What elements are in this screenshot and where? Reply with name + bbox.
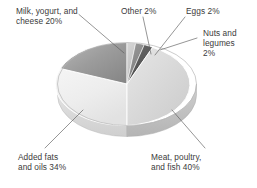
label-nuts-and-legumes: Nuts and legumes 2% (203, 28, 255, 59)
label-other: Other 2% (121, 6, 169, 16)
label-eggs: Eggs 2% (186, 6, 236, 16)
label-milk-yogurt-cheese: Milk, yogurt, and cheese 20% (16, 6, 112, 26)
label-meat-poultry-fish: Meat, poultry, and fish 40% (151, 152, 247, 172)
scan-vignette (35, 30, 219, 146)
pie-chart-figure: Milk, yogurt, and cheese 20% Other 2% Eg… (0, 0, 257, 188)
label-added-fats-and-oils: Added fats and oils 34% (18, 152, 110, 172)
